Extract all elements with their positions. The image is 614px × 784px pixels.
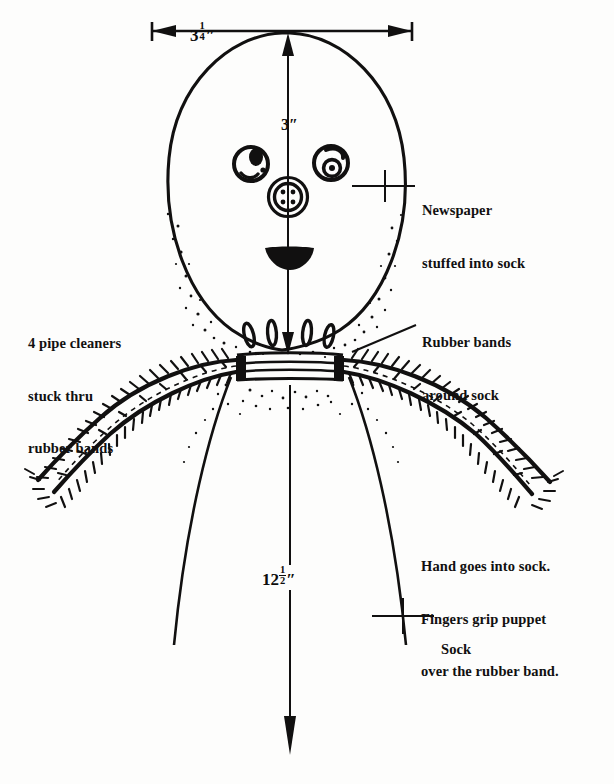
dim-width-whole: 3	[190, 26, 199, 45]
annotation-newspaper-line-1: Newspaper	[422, 202, 525, 220]
button-eye-right	[314, 146, 348, 180]
button-eye-left	[234, 147, 268, 181]
annotation-hand-line-1: Hand goes into sock.	[421, 558, 559, 576]
dim-width-fraction: 14	[199, 21, 206, 42]
dimension-label-head-height: 3″	[281, 116, 298, 134]
dim-sock-denominator: 2	[279, 576, 286, 586]
leader-rubber-bands	[352, 325, 416, 352]
annotation-pipe-cleaners-line-1: 4 pipe cleaners	[28, 335, 121, 353]
rubber-band-neck	[236, 353, 344, 381]
dim-sock-whole: 12	[262, 570, 279, 589]
dimension-label-sock-length: 1212″	[262, 566, 296, 590]
dim-head-unit: ″	[289, 116, 298, 133]
dim-sock-fraction: 12	[279, 565, 286, 586]
annotation-rubber-bands-line-1: Rubber bands	[422, 334, 511, 352]
annotation-newspaper-line-2: stuffed into sock	[422, 255, 525, 273]
dim-sock-unit: ″	[286, 570, 295, 589]
annotation-pipe-cleaners-line-2: stuck thru	[28, 388, 121, 406]
dim-width-unit: ″	[206, 26, 215, 45]
annotation-rubber-bands: Rubber bands around sock	[422, 299, 511, 439]
annotation-newspaper: Newspaper stuffed into sock	[422, 167, 525, 307]
annotation-rubber-bands-line-2: around sock	[422, 387, 511, 405]
dim-head-whole: 3	[281, 116, 289, 133]
puppet-diagram: 314″ 3″ 1212″ Newspaper stuffed into soc…	[0, 0, 614, 784]
annotation-pipe-cleaners-line-3: rubber bands	[28, 440, 121, 458]
annotation-sock-line-1: Sock	[441, 641, 471, 659]
annotation-sock: Sock	[441, 606, 471, 694]
dimension-label-head-width: 314″	[190, 22, 215, 46]
annotation-pipe-cleaners: 4 pipe cleaners stuck thru rubber bands	[28, 300, 121, 493]
mouth	[265, 247, 314, 271]
dim-width-denominator: 4	[199, 32, 206, 42]
